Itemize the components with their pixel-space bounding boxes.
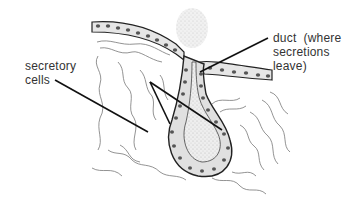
secretion-cloud [176, 8, 208, 48]
duct-label-line2: secretions [273, 45, 341, 59]
secretory-cells-label: secretory cells [25, 59, 76, 87]
surface-epithelium-right [200, 61, 272, 80]
duct-label-line3: leave) [273, 59, 341, 73]
leader-lines [55, 38, 268, 132]
secretory-cells-pointer-main [55, 80, 148, 132]
secretory-cells-label-line1: secretory [25, 59, 76, 73]
duct-label-line1: duct (where [273, 31, 341, 45]
duct-label: duct (where secretions leave) [273, 31, 341, 73]
secretory-cells-label-line2: cells [25, 73, 76, 87]
